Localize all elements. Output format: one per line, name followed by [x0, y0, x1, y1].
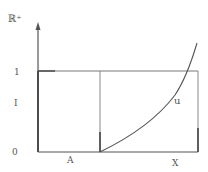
curve-u [100, 43, 197, 152]
axis-label-R-plus: ℝ⁺ [8, 13, 22, 24]
curve-label-u: u [174, 95, 181, 106]
x-label-X: X [172, 158, 179, 168]
y-axis-arrow-icon [36, 22, 41, 30]
y-tick-label-0: 0 [12, 147, 18, 157]
y-tick-label-1: 1 [14, 67, 20, 77]
y-tick-label-I: I [14, 98, 18, 108]
diagram-canvas: ℝ⁺ 1 I 0 A X u [0, 0, 208, 172]
x-label-A: A [66, 155, 74, 165]
